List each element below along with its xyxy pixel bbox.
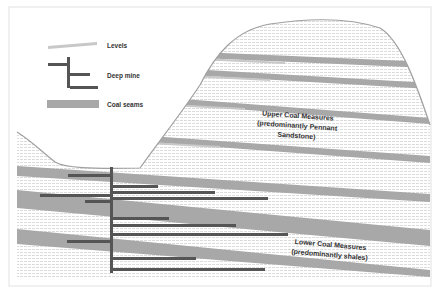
coal-measures-diagram: Levels Deep mine Coal seams Upper Coal M… <box>0 0 439 296</box>
legend-coal-seams-label: Coal seams <box>107 101 144 108</box>
legend-deep-mine-label: Deep mine <box>107 72 140 80</box>
legend-levels-label: Levels <box>107 42 128 49</box>
legend-coal-seams-swatch <box>47 100 99 108</box>
